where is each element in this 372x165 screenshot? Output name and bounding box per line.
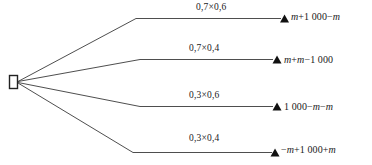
tree-lines-svg (0, 0, 372, 165)
triangle-marker-2 (273, 56, 282, 64)
outcome-expression-2: m+m−1 000 (284, 54, 333, 65)
branch-probability-1: 0,7×0,6 (196, 2, 227, 12)
branch-line-3 (18, 83, 273, 107)
probability-tree-diagram: 0,7×0,6 0,7×0,4 0,3×0,6 0,3×0,4 m+1 000−… (0, 0, 372, 165)
branch-probability-2: 0,7×0,4 (189, 43, 220, 53)
branch-probability-3: 0,3×0,6 (189, 90, 220, 100)
outcome-expression-4: −m+1 000+m (281, 144, 336, 155)
triangle-marker-1 (280, 15, 289, 23)
root-node (10, 76, 18, 89)
branch-line-2 (18, 60, 273, 82)
triangle-marker-3 (273, 103, 282, 111)
branch-probability-4: 0,3×0,4 (189, 133, 220, 143)
outcome-expression-3: 1 000−m−m (284, 101, 333, 112)
branch-line-1 (18, 19, 281, 82)
branch-line-4 (18, 83, 272, 153)
outcome-expression-1: m+1 000−m (291, 11, 340, 22)
